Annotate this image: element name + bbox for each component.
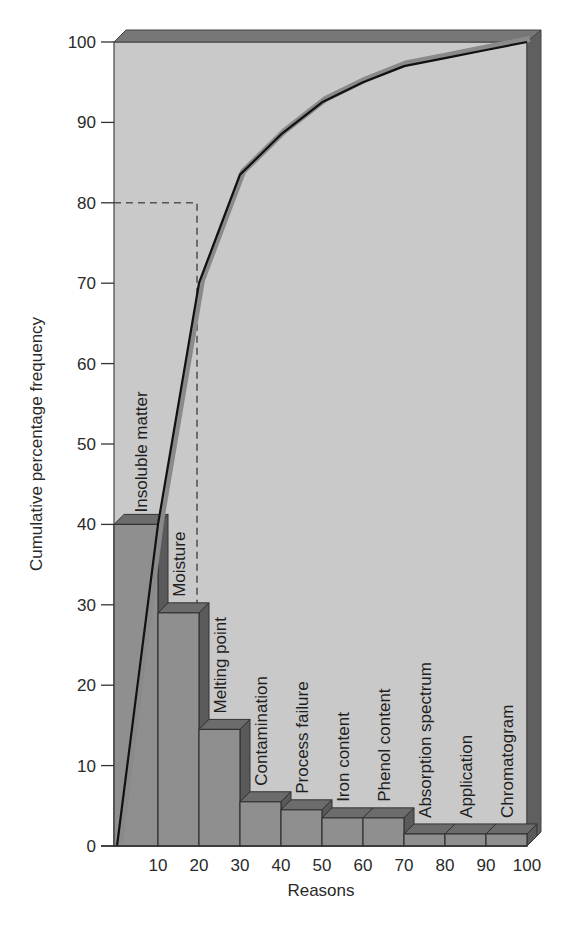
y-tick-label: 70	[77, 274, 96, 293]
bar	[486, 824, 537, 846]
bar-front-face	[404, 834, 445, 846]
frame-top-face	[114, 30, 541, 42]
bar-front-face	[486, 834, 527, 846]
bar-label: Iron content	[334, 712, 353, 802]
bar-side-face	[240, 719, 250, 801]
x-axis: 102030405060708090100	[149, 856, 542, 875]
x-tick-label: 30	[231, 856, 250, 875]
y-tick-label: 10	[77, 757, 96, 776]
bar-label: Moisture	[170, 532, 189, 597]
y-tick-label: 50	[77, 435, 96, 454]
x-tick-label: 20	[190, 856, 209, 875]
x-tick-label: 60	[354, 856, 373, 875]
y-tick-label: 100	[68, 33, 96, 52]
x-tick-label: 70	[395, 856, 414, 875]
frame-right-face	[527, 30, 541, 846]
x-tick-label: 90	[477, 856, 496, 875]
x-tick-label: 100	[513, 856, 541, 875]
pareto-chart: Insoluble matterMoistureMelting pointCon…	[0, 0, 569, 929]
bar-label: Phenol content	[375, 688, 394, 802]
y-axis-title: Cumulative percentage frequency	[27, 316, 46, 571]
bar-label: Chromatogram	[498, 705, 517, 818]
bar-label: Melting point	[211, 617, 230, 714]
y-tick-label: 20	[77, 676, 96, 695]
bar-front-face	[158, 613, 199, 846]
x-tick-label: 50	[313, 856, 332, 875]
bar-front-face	[445, 834, 486, 846]
bar-side-face	[199, 603, 209, 730]
y-tick-label: 90	[77, 113, 96, 132]
bar-front-face	[281, 810, 322, 846]
bar-front-face	[240, 802, 281, 846]
y-tick-label: 60	[77, 355, 96, 374]
bar-label: Application	[457, 735, 476, 818]
x-tick-label: 80	[436, 856, 455, 875]
bar-front-face	[363, 818, 404, 846]
x-axis-title: Reasons	[287, 881, 354, 900]
bar-label: Absorption spectrum	[416, 662, 435, 818]
bar-front-face	[322, 818, 363, 846]
bar-label: Contamination	[252, 676, 271, 786]
y-tick-label: 30	[77, 596, 96, 615]
y-tick-label: 80	[77, 194, 96, 213]
bar-label: Insoluble matter	[132, 391, 151, 512]
x-tick-label: 40	[272, 856, 291, 875]
x-tick-label: 10	[149, 856, 168, 875]
y-tick-label: 0	[87, 837, 96, 856]
bar-front-face	[199, 729, 240, 846]
bar-label: Process failure	[293, 681, 312, 793]
y-tick-label: 40	[77, 515, 96, 534]
